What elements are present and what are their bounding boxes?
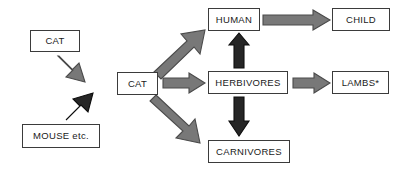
- node-human[interactable]: HUMAN: [208, 8, 260, 31]
- arrow-catcenter-to-herbivores: [163, 73, 205, 93]
- arrow-human-to-child: [263, 10, 330, 30]
- node-herbivores[interactable]: HERBIVORES: [208, 71, 288, 94]
- arrow-herbivores-to-carnivores: [229, 97, 249, 136]
- node-cat-source[interactable]: CAT: [30, 30, 80, 52]
- node-label: HUMAN: [214, 15, 254, 25]
- arrow-herbivores-to-human: [229, 33, 249, 68]
- node-lambs[interactable]: LAMBS*: [332, 71, 389, 94]
- arrow-catcenter-to-carnivores: [150, 95, 200, 143]
- node-label: HERBIVORES: [213, 78, 282, 88]
- node-label: LAMBS*: [340, 78, 382, 88]
- node-label: CAT: [43, 36, 66, 46]
- node-child[interactable]: CHILD: [332, 8, 390, 31]
- node-label: CAT: [126, 79, 149, 89]
- arrow-mouse-to-catcenter: [66, 93, 93, 120]
- node-label: MOUSE etc.: [31, 131, 91, 141]
- arrow-catcenter-to-human: [154, 30, 205, 79]
- diagram-canvas: CAT MOUSE etc. CAT HUMAN CHILD HERBIVORE…: [0, 0, 405, 172]
- node-cat-center[interactable]: CAT: [117, 72, 158, 95]
- node-mouse-source[interactable]: MOUSE etc.: [22, 124, 100, 148]
- arrow-cat-to-catcenter: [58, 56, 85, 82]
- node-label: CHILD: [344, 15, 378, 25]
- arrow-herbivores-to-lambs: [293, 73, 330, 93]
- node-carnivores[interactable]: CARNIVORES: [208, 140, 290, 163]
- node-label: CARNIVORES: [214, 147, 284, 157]
